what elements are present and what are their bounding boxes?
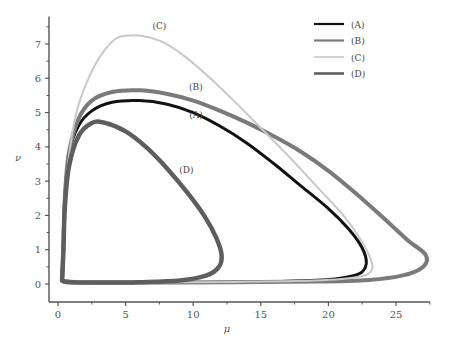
legend-label: (D) bbox=[351, 69, 365, 79]
y-tick-label: 0 bbox=[35, 279, 41, 290]
y-tick-label: 6 bbox=[35, 73, 41, 84]
legend-item: (B) bbox=[314, 36, 365, 46]
x-axis-label: μ bbox=[224, 323, 231, 334]
legend-label: (B) bbox=[351, 36, 365, 46]
y-tick-label: 4 bbox=[35, 141, 41, 152]
y-tick-label: 2 bbox=[35, 210, 41, 221]
legend-label: (A) bbox=[351, 20, 365, 30]
curve-annotation: (D) bbox=[179, 165, 193, 175]
x-ticks: 0510152025 bbox=[55, 302, 430, 320]
legend-label: (C) bbox=[351, 53, 365, 63]
x-tick-label: 20 bbox=[322, 309, 335, 320]
legend-item: (D) bbox=[314, 69, 365, 79]
legend: (A)(B)(C)(D) bbox=[314, 20, 365, 80]
y-ticks: 01234567 bbox=[35, 27, 49, 290]
curve-annotation: (C) bbox=[152, 21, 166, 31]
axes-layer: 01234567 0510152025 μ ν bbox=[15, 17, 430, 334]
y-tick-label: 7 bbox=[35, 39, 41, 50]
series-b-curve bbox=[62, 90, 427, 282]
curve-annotation: (B) bbox=[189, 82, 203, 92]
x-tick-label: 5 bbox=[122, 309, 128, 320]
y-axis-label: ν bbox=[15, 152, 21, 163]
curves-layer bbox=[62, 35, 427, 283]
legend-item: (C) bbox=[314, 53, 365, 63]
x-tick-label: 25 bbox=[390, 309, 403, 320]
y-tick-label: 3 bbox=[35, 176, 41, 187]
series-d-curve bbox=[62, 121, 222, 282]
y-tick-label: 1 bbox=[35, 244, 41, 255]
x-tick-label: 15 bbox=[254, 309, 267, 320]
legend-item: (A) bbox=[314, 20, 365, 30]
curve-annotation: (A) bbox=[189, 110, 203, 120]
x-tick-label: 10 bbox=[187, 309, 200, 320]
x-tick-label: 0 bbox=[55, 309, 61, 320]
phase-portrait-chart: 01234567 0510152025 μ ν (C)(B)(A)(D) (A)… bbox=[0, 0, 450, 351]
y-tick-label: 5 bbox=[35, 107, 41, 118]
